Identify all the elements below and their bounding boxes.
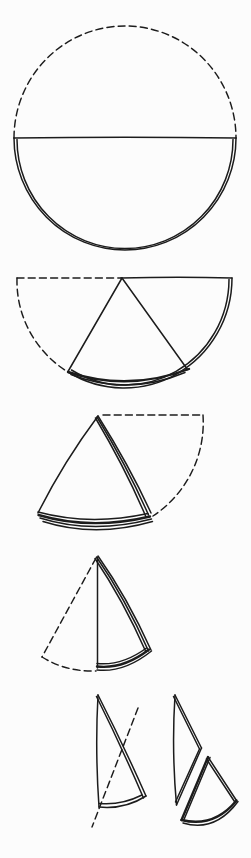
bottom-piece-left-edge-1 — [182, 757, 209, 820]
bottom-piece-bottom-arc-1 — [182, 801, 237, 822]
step-fold-semicircle-into-thirds — [17, 277, 232, 388]
top-piece-left-edge — [174, 695, 177, 805]
flap-fold-left-edge — [68, 278, 122, 372]
original-flap-dashed-arc — [17, 278, 68, 372]
top-piece-upper-right-edge-2 — [174, 697, 200, 750]
outer-arc-edge — [68, 278, 232, 388]
cone-right-edge-3 — [96, 418, 147, 517]
flap-original-dashed-arc — [153, 415, 203, 516]
top-folded-edge — [121, 277, 232, 278]
top-piece-lower-right-edge-1 — [177, 748, 202, 805]
bottom-piece-right-edge-2 — [207, 759, 235, 802]
fold-crease-diameter — [14, 137, 236, 138]
folded-half-inner-edge — [17, 140, 233, 249]
step-fold-cone-in-half — [42, 556, 152, 671]
original-circle-top-dashed-arc — [14, 26, 236, 138]
bottom-piece-left-edge-2 — [184, 758, 210, 820]
folding-diagram — [0, 0, 251, 858]
bottom-piece-right-edge-1 — [208, 757, 237, 801]
folded-half-outer-edge — [14, 138, 236, 250]
step-cut-cone-and-pieces — [92, 695, 238, 827]
original-cone-dashed-left-edge — [42, 558, 96, 657]
top-piece-upper-right-edge-1 — [175, 695, 202, 748]
flap-fold-right-edge — [122, 278, 188, 370]
paper-folding-diagram-page — [0, 0, 251, 858]
folded-cone-right-edge-1 — [98, 695, 146, 796]
cone-right-edge-3 — [95, 559, 146, 653]
inner-arc-edge — [72, 280, 230, 386]
folded-cone-bottom-edge-2 — [100, 795, 143, 804]
cone-left-edge — [38, 416, 98, 513]
top-piece-lower-right-edge-2 — [176, 749, 200, 802]
step-fold-circle-in-half — [14, 26, 236, 250]
cut-line-dashed — [92, 708, 138, 827]
original-cone-dashed-arc — [42, 657, 96, 671]
folded-cone-left-edge — [97, 695, 99, 807]
step-folded-thirds-cone — [38, 415, 203, 530]
